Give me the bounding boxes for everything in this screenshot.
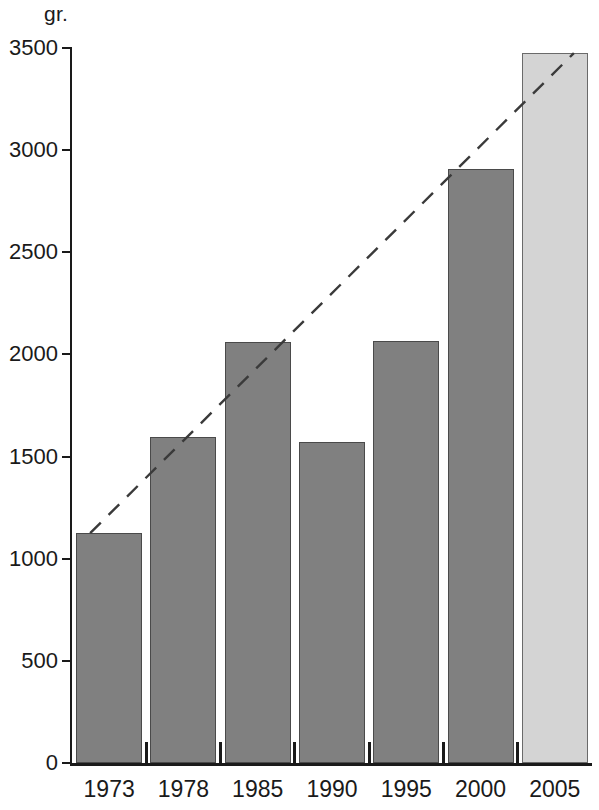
x-label-2005: 2005 bbox=[518, 776, 592, 802]
bar-2000 bbox=[448, 169, 514, 763]
y-tick-label: 2500 bbox=[2, 241, 58, 263]
x-label-1973: 1973 bbox=[72, 776, 146, 802]
bar-1978 bbox=[150, 437, 216, 763]
y-tick-label: 1000 bbox=[2, 548, 58, 570]
y-tick-label-wrap: 3500 bbox=[0, 37, 58, 59]
x-axis-line bbox=[70, 763, 592, 766]
y-axis-line bbox=[70, 48, 72, 765]
y-tick-label-wrap: 3000 bbox=[0, 139, 58, 161]
bar-2005 bbox=[522, 53, 588, 763]
x-tick-mark bbox=[219, 742, 222, 763]
y-tick-label: 0 bbox=[2, 752, 58, 774]
x-tick-mark bbox=[516, 742, 519, 763]
bar-1973 bbox=[76, 533, 142, 763]
y-tick-mark bbox=[62, 251, 72, 253]
bar-1990 bbox=[299, 442, 365, 763]
x-label-1978: 1978 bbox=[146, 776, 220, 802]
y-tick-label-wrap: 1000 bbox=[0, 548, 58, 570]
y-tick-label-wrap: 500 bbox=[0, 650, 58, 672]
x-label-1995: 1995 bbox=[369, 776, 443, 802]
x-tick-mark bbox=[442, 742, 445, 763]
y-tick-label: 3500 bbox=[2, 37, 58, 59]
y-tick-mark bbox=[62, 660, 72, 662]
y-tick-label: 1500 bbox=[2, 446, 58, 468]
y-tick-mark bbox=[62, 149, 72, 151]
x-tick-mark bbox=[145, 742, 148, 763]
y-tick-label-wrap: 2500 bbox=[0, 241, 58, 263]
y-tick-mark bbox=[62, 353, 72, 355]
bar-1985 bbox=[225, 342, 291, 763]
x-label-1990: 1990 bbox=[295, 776, 369, 802]
y-tick-label: 3000 bbox=[2, 139, 58, 161]
x-label-2000: 2000 bbox=[443, 776, 517, 802]
y-tick-label-wrap: 2000 bbox=[0, 343, 58, 365]
y-tick-label-wrap: 0 bbox=[0, 752, 58, 774]
plot-area: 0500100015002000250030003500 19731978198… bbox=[0, 0, 599, 810]
y-tick-label-wrap: 1500 bbox=[0, 446, 58, 468]
x-label-1985: 1985 bbox=[221, 776, 295, 802]
bar-chart: gr. 0500100015002000250030003500 1973197… bbox=[0, 0, 599, 810]
bar-1995 bbox=[373, 341, 439, 763]
x-tick-mark bbox=[293, 742, 296, 763]
y-tick-mark bbox=[62, 456, 72, 458]
y-tick-mark bbox=[62, 762, 72, 764]
y-tick-mark bbox=[62, 47, 72, 49]
y-tick-mark bbox=[62, 558, 72, 560]
y-tick-label: 500 bbox=[2, 650, 58, 672]
x-tick-mark bbox=[368, 742, 371, 763]
y-tick-label: 2000 bbox=[2, 343, 58, 365]
